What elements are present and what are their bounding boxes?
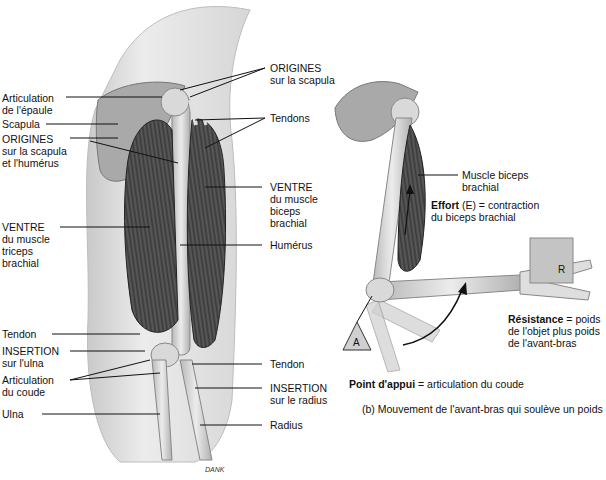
label-line: de l'objet plus poids [508, 325, 601, 337]
label-line: Tendons [270, 112, 310, 124]
figure-caption: (b) Mouvement de l'avant-bras qui soulèv… [362, 403, 603, 415]
label-line: INSERTION [270, 382, 327, 394]
label-line: Tendon [270, 358, 304, 370]
label-line: Radius [270, 419, 303, 431]
label-line: Scapula [2, 118, 40, 130]
label-humerus: Humérus [270, 239, 313, 251]
label-line: Humérus [270, 239, 313, 251]
panel-a-arm: DANK [87, 7, 250, 473]
label-line: sur l'ulna [2, 357, 59, 369]
label-line: VENTRE [2, 221, 50, 233]
caption-text: (b) Mouvement de l'avant-bras qui soulèv… [362, 403, 603, 415]
effort-definition: (E) = contraction [459, 199, 539, 211]
marker-A: A [353, 337, 360, 349]
marker-A-text: A [353, 337, 360, 348]
label-line: sur la scapula [270, 74, 335, 86]
label-line: brachial [2, 257, 50, 269]
artist-signature: DANK [205, 466, 225, 473]
effort-term: Effort [431, 199, 459, 211]
label-line: de l'épaule [2, 104, 54, 116]
label-line: du muscle [2, 233, 50, 245]
label-line: ORIGINES [270, 62, 335, 74]
label-fulcrum: Point d'appui = articulation du coude [349, 378, 524, 390]
label-line: de l'avant-bras [508, 337, 601, 349]
fulcrum-definition: = articulation du coude [415, 378, 524, 390]
label-line: du coude [2, 386, 54, 398]
label-insertion-radius: INSERTION sur le radius [270, 382, 327, 406]
label-line: Ulna [2, 408, 24, 420]
resistance-term: Résistance [508, 313, 563, 325]
label-radius: Radius [270, 419, 303, 431]
label-line: sur le radius [270, 394, 327, 406]
label-triceps-belly: VENTRE du muscle triceps brachial [2, 221, 50, 269]
label-tendon-right: Tendon [270, 358, 304, 370]
biceps-muscle [187, 119, 225, 347]
fulcrum-term: Point d'appui [349, 378, 415, 390]
label-effort: Effort (E) = contraction du biceps brach… [431, 199, 539, 223]
label-shoulder-joint: Articulation de l'épaule [2, 92, 54, 116]
label-line: triceps [2, 245, 50, 257]
label-tendons: Tendons [270, 112, 310, 124]
label-ulna: Ulna [2, 408, 24, 420]
label-line: VENTRE [270, 181, 318, 193]
label-line: Résistance = poids [508, 313, 601, 325]
label-line: Muscle biceps [462, 169, 529, 181]
label-insertion-ulna: INSERTION sur l'ulna [2, 345, 59, 369]
label-tendon-left: Tendon [2, 328, 36, 340]
marker-R: R [558, 264, 565, 276]
label-line: Tendon [2, 328, 36, 340]
label-resistance: Résistance = poids de l'objet plus poids… [508, 313, 601, 349]
marker-R-text: R [558, 264, 565, 275]
label-line: Articulation [2, 92, 54, 104]
label-origins-scapula: ORIGINES sur la scapula [270, 62, 335, 86]
label-line: biceps [270, 205, 318, 217]
label-scapula: Scapula [2, 118, 40, 130]
label-line: INSERTION [2, 345, 59, 357]
label-biceps-muscle: Muscle biceps brachial [462, 169, 529, 193]
label-line: sur la scapula [2, 145, 67, 157]
label-line: et l'humérus [2, 157, 67, 169]
label-line: brachial [270, 217, 318, 229]
label-origins-scapula-humerus: ORIGINES sur la scapula et l'humérus [2, 133, 67, 169]
label-elbow-joint: Articulation du coude [2, 374, 54, 398]
label-line: ORIGINES [2, 133, 67, 145]
label-line: brachial [462, 181, 529, 193]
label-line: Articulation [2, 374, 54, 386]
resistance-definition: = poids [563, 313, 600, 325]
weight-box [530, 238, 573, 283]
label-line: du muscle [270, 193, 318, 205]
label-line: du biceps brachial [431, 211, 539, 223]
label-biceps-belly: VENTRE du muscle biceps brachial [270, 181, 318, 229]
label-line: Effort (E) = contraction [431, 199, 539, 211]
